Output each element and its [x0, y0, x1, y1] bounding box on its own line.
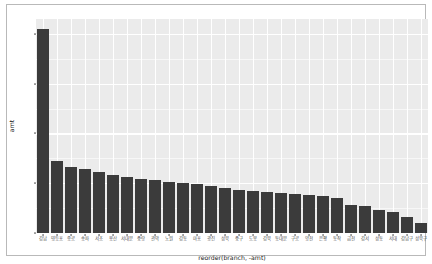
bar [247, 191, 259, 233]
bar [121, 177, 133, 233]
x-axis-tick-label: 동대문 [275, 237, 287, 242]
bar [373, 210, 385, 233]
x-axis-tick-label: 서대 [389, 237, 397, 242]
y-axis-tick-mark [34, 83, 36, 84]
x-axis-tick-label: 마포 [193, 237, 201, 242]
bar [401, 217, 413, 233]
y-axis-tick-mark [34, 183, 36, 184]
bar [65, 167, 77, 233]
chart-figure: 01000200030004000 amt 강남영등포종로송파서초용산서대문중랑… [0, 0, 432, 264]
bar [387, 212, 399, 233]
bar [163, 182, 175, 233]
x-axis-tick-label: 서초 [95, 237, 103, 242]
bar [51, 161, 63, 233]
x-axis-tick-label: 성동 [375, 237, 383, 242]
bar [233, 190, 245, 233]
y-axis-tick-mark [34, 33, 36, 34]
bar [79, 169, 91, 233]
x-axis-tick-label: 관악 [151, 237, 159, 242]
x-axis-tick-label: 강동 [179, 237, 187, 242]
x-axis-tick-label: 양천 [305, 237, 313, 242]
x-axis-tick-label: 강남 [39, 237, 47, 242]
bar [219, 188, 231, 233]
x-axis-tick-label: 중구 [235, 237, 243, 242]
bar [205, 186, 217, 233]
x-axis-tick-label: 송파 [81, 237, 89, 242]
x-axis-tick-label: 성북 [221, 237, 229, 242]
x-axis-tick-label: 강서 [361, 237, 369, 242]
bar [135, 179, 147, 233]
bar [331, 198, 343, 233]
x-axis-tick-label: 구로 [291, 237, 299, 242]
x-axis-title: reorder(branch, -amt) [36, 254, 428, 261]
bar [149, 180, 161, 233]
bar [191, 184, 203, 233]
x-axis-tick-label: 용산 [109, 237, 117, 242]
x-axis-tick-label: 성북구 [415, 237, 427, 242]
x-axis-tick-labels: 강남영등포종로송파서초용산서대문중랑관악노원강동마포광진성북중구도봉강북동대문구… [36, 234, 428, 252]
x-axis-tick-label: 광진 [207, 237, 215, 242]
x-axis-tick-label: 도봉 [249, 237, 257, 242]
bar [345, 205, 357, 233]
bar [415, 223, 427, 233]
y-axis-tick-mark [34, 133, 36, 134]
bar [177, 183, 189, 233]
figure-border: 01000200030004000 amt 강남영등포종로송파서초용산서대문중랑… [6, 4, 426, 256]
bar [359, 206, 371, 233]
x-axis-tick-label: 강북 [263, 237, 271, 242]
bar [93, 172, 105, 233]
x-axis-tick-label: 영등포 [51, 237, 63, 242]
bar-series [36, 19, 428, 233]
x-axis-tick-label: 중랑 [137, 237, 145, 242]
x-axis-tick-label: 동작 [333, 237, 341, 242]
x-axis-tick-label: 종로 [67, 237, 75, 242]
bar [289, 194, 301, 233]
bar [303, 195, 315, 233]
x-axis-tick-label: 서대문 [121, 237, 133, 242]
x-axis-tick-label: 금천 [347, 237, 355, 242]
bar [275, 193, 287, 233]
bar [317, 196, 329, 233]
x-axis-tick-label: 노원 [165, 237, 173, 242]
bar [107, 175, 119, 233]
y-axis-title: amt [8, 120, 15, 132]
x-axis-tick-label: 강남구 [401, 237, 413, 242]
bar [37, 29, 49, 233]
plot-panel [36, 19, 428, 233]
x-axis-tick-label: 은평 [319, 237, 327, 242]
bar [261, 192, 273, 233]
